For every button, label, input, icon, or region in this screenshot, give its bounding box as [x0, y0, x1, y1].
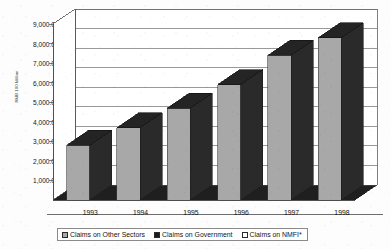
x-tick-label: 1998 [334, 209, 349, 216]
bar-side [241, 70, 263, 200]
x-tick-label: 1997 [284, 209, 299, 216]
bar-side [341, 23, 363, 200]
x-tick-label: 1993 [83, 209, 98, 216]
bar-front [67, 145, 90, 200]
x-axis-tick-labels: 199319941995199619971998 [0, 201, 391, 217]
x-tick-label: 1995 [183, 209, 198, 216]
legend-label: Claims on Government [162, 231, 232, 238]
legend-swatch-icon [154, 232, 160, 238]
legend-label: Claims on Other Sectors [70, 231, 145, 238]
bar-front [117, 128, 140, 200]
legend-swatch-icon [62, 232, 68, 238]
bar-front [218, 85, 241, 200]
bar-side [291, 40, 313, 200]
chart-figure: RMB 100 Million 1,000.02,000.03,000.04,0… [0, 0, 391, 249]
bar-front [318, 38, 341, 200]
legend-swatch-icon [242, 232, 248, 238]
chart-legend: Claims on Other SectorsClaims on Governm… [57, 228, 308, 241]
legend-item[interactable]: Claims on Other Sectors [62, 231, 145, 238]
legend-item[interactable]: Claims on Government [154, 231, 232, 238]
legend-item[interactable]: Claims on NMFI* [242, 231, 302, 238]
x-tick-label: 1996 [234, 209, 249, 216]
bar-front [268, 55, 291, 200]
legend-label: Claims on NMFI* [250, 231, 302, 238]
x-tick-label: 1994 [133, 209, 148, 216]
bar-side [190, 93, 212, 200]
bar-front [167, 108, 190, 200]
